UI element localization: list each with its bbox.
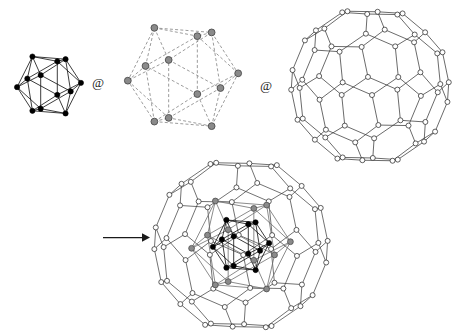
composite-fullerene-edge: [269, 188, 290, 201]
fullerene-vertex: [372, 136, 377, 141]
icosahedron-gray-edge: [154, 28, 197, 36]
composite-fullerene-vertex: [294, 253, 299, 258]
icosahedron-gray-vertex: [235, 70, 242, 77]
composite-fullerene-vertex: [316, 240, 321, 245]
composite-fullerene-vertex: [161, 245, 166, 250]
composite-fullerene-vertex: [178, 203, 183, 208]
fullerene-vertex: [376, 123, 381, 128]
fullerene-edge: [395, 46, 398, 77]
fullerene-edge: [397, 15, 414, 35]
icosahedron-gray-vertex: [142, 63, 149, 70]
composite-fullerene-vertex: [243, 300, 248, 305]
composite-fullerene-vertex: [188, 179, 193, 184]
fullerene-edge: [403, 13, 426, 32]
composite-fullerene-vertex: [298, 304, 303, 309]
fullerene-vertex: [322, 26, 327, 31]
composite-fullerene-edge: [313, 263, 327, 296]
composite-fullerene-edge: [166, 205, 180, 238]
composite-fullerene-edge: [257, 183, 289, 197]
icosahedron-gray-edge: [146, 28, 155, 66]
icosahedron-gray-edge: [197, 73, 238, 94]
composite-fullerene-vertex: [310, 293, 315, 298]
composite-fullerene-vertex: [203, 322, 208, 327]
composite-fullerene-vertex: [152, 247, 157, 252]
fullerene-vertex: [337, 49, 342, 54]
fullerene-edge: [345, 126, 374, 139]
fullerene-vertex: [413, 141, 418, 146]
composite-fullerene-edge: [300, 285, 301, 307]
composite-fullerene-edge: [302, 186, 321, 208]
fullerene-edge: [342, 77, 368, 95]
panel-icosahedron-black: [8, 44, 90, 126]
icosahedron-black-vertex: [30, 54, 35, 59]
fullerene-vertex: [375, 9, 380, 14]
fullerene-edge: [316, 12, 342, 30]
icosahedron-gray-edge: [169, 118, 212, 126]
at-operator-2-label: @: [260, 79, 272, 92]
fullerene-edge: [291, 90, 297, 120]
fullerene-edge: [366, 14, 367, 34]
icosahedron-black-vertex: [63, 111, 68, 116]
composite-fullerene-vertex: [183, 258, 188, 263]
fullerene-vertex: [289, 87, 294, 92]
icosahedron-black-edge: [41, 75, 71, 91]
composite-fullerene-edge: [236, 187, 268, 201]
fullerene-vertex: [395, 87, 400, 92]
icosahedron-black-vertex: [14, 85, 19, 90]
fullerene-vertex: [317, 74, 322, 79]
icosahedron-gray-vertex: [217, 85, 224, 92]
composite-fullerene-edge: [154, 249, 161, 282]
fullerene-edge: [397, 72, 420, 89]
composite-fullerene-edge: [211, 324, 244, 325]
composite-fullerene-vertex: [205, 205, 210, 210]
composite-fullerene-edge: [186, 260, 193, 293]
composite-fullerene-edge: [302, 252, 316, 285]
composite-fullerene-edge: [216, 163, 249, 164]
composite-fullerene-edge: [192, 293, 224, 307]
composite-fullerene-vertex: [272, 280, 277, 285]
icosahedron-black-edge: [32, 57, 40, 76]
icosahedron-gray-edge: [212, 73, 239, 126]
fullerene-edge: [424, 122, 425, 142]
fullerene-edge: [385, 30, 414, 43]
icosahedron-black-vertex: [38, 73, 43, 78]
composite-fullerene-edge: [156, 195, 170, 228]
icosahedron-gray-edge: [146, 66, 155, 122]
fullerene-vertex: [342, 123, 347, 128]
icosahedron-gray-edge: [212, 88, 221, 126]
composite-icosahedron-gray-edge: [215, 285, 266, 289]
fullerene-edge: [367, 14, 397, 15]
at-operator-1-label: @: [92, 76, 104, 89]
icosahedron-gray-edge: [169, 60, 221, 88]
icosahedron-gray-vertex: [151, 118, 158, 125]
composite-fullerene-vertex: [183, 232, 188, 237]
icosahedron-gray-edge: [128, 28, 155, 81]
fullerene-vertex: [438, 82, 443, 87]
icosahedron-black-edge: [17, 57, 32, 88]
icosahedron-black-vertex: [25, 76, 30, 81]
fullerene-vertex: [323, 135, 328, 140]
fullerene-edge: [442, 52, 448, 82]
icosahedron-black-edge: [66, 83, 81, 114]
icosahedron-gray-vertex: [151, 24, 158, 31]
icosahedron-gray-edge: [128, 60, 169, 81]
arrow-head: [142, 233, 150, 242]
composite-fullerene-vertex: [289, 306, 294, 311]
composite-icosahedron-gray-vertex: [251, 257, 257, 263]
fullerene-edge: [447, 82, 448, 102]
composite-fullerene-edge: [167, 281, 192, 302]
fullerene-vertex: [390, 158, 395, 163]
composite-icosahedron-black-vertex: [253, 220, 258, 225]
icosahedron-gray-vertex: [208, 123, 215, 130]
icosahedron-black-edge: [27, 79, 57, 95]
composite-svg: [150, 155, 332, 336]
fullerene-edge: [320, 82, 343, 99]
fullerene-vertex: [365, 74, 370, 79]
composite-fullerene-edge: [238, 166, 271, 167]
fullerene-edge: [395, 35, 414, 47]
composite-fullerene-edge: [290, 188, 315, 209]
fullerene-vertex: [335, 156, 340, 161]
fullerene-edge: [420, 72, 437, 92]
fullerene-edge: [362, 160, 392, 161]
fullerene-edge: [325, 126, 344, 138]
